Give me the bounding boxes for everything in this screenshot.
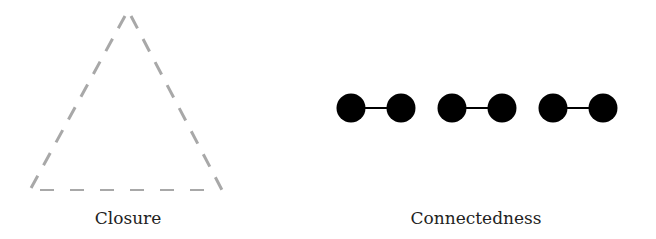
connectedness-dot-pairs [337, 94, 618, 123]
connected-pair-1 [337, 94, 416, 123]
closure-label: Closure [95, 208, 162, 228]
closure-dashed-triangle [30, 16, 222, 190]
gestalt-diagram [0, 0, 656, 239]
connected-pair-2 [438, 94, 517, 123]
connectedness-label: Connectedness [411, 208, 542, 228]
connected-pair-3 [539, 94, 618, 123]
